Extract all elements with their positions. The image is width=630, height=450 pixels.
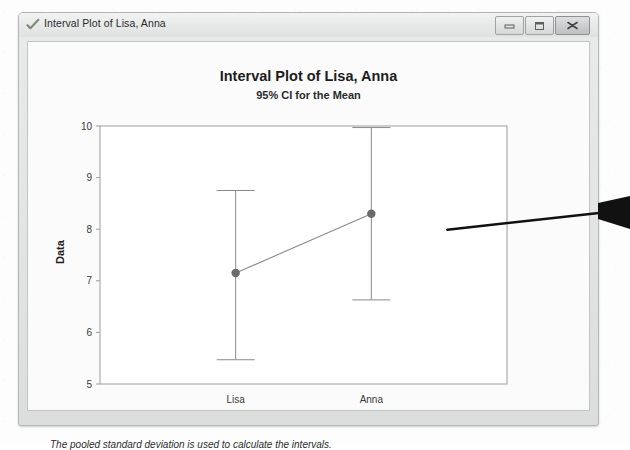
window-titlebar[interactable]: Interval Plot of Lisa, Anna	[19, 13, 598, 37]
x-axis-category-label: Anna	[360, 394, 384, 405]
y-tick-label: 5	[86, 379, 92, 390]
close-button[interactable]	[555, 16, 590, 35]
y-tick-label: 7	[86, 275, 92, 286]
graph-panel: Interval Plot of Lisa, Anna 95% CI for t…	[27, 41, 590, 411]
plot-area	[100, 126, 507, 384]
y-tick-label: 9	[86, 172, 92, 183]
mean-marker	[231, 269, 239, 277]
arrow-tail	[598, 196, 630, 229]
y-tick-label: 10	[81, 121, 93, 132]
mean-marker	[367, 210, 375, 218]
y-tick-label: 8	[86, 224, 92, 235]
graph-window: Interval Plot of Lisa, Anna Interv	[18, 12, 599, 426]
chart-footnote: The pooled standard deviation is used to…	[50, 439, 332, 450]
x-axis-category-label: Lisa	[226, 394, 245, 405]
minitab-checkmark-icon	[26, 18, 40, 32]
maximize-button[interactable]	[525, 16, 554, 35]
interval-plot: 1098765LisaAnna	[28, 42, 589, 410]
y-tick-label: 6	[86, 327, 92, 338]
minimize-button[interactable]	[495, 16, 524, 35]
window-title: Interval Plot of Lisa, Anna	[44, 17, 166, 29]
